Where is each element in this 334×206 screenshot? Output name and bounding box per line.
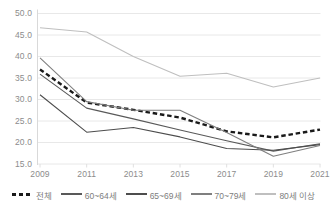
legend-item-70~79세[interactable]: 70~79세 [191,189,247,201]
legend-swatch-80세 이상 [255,190,276,199]
legend-swatch-전체 [12,190,33,199]
series-lines [40,28,320,157]
y-tick-label: 20.0 [6,137,32,147]
y-tick-label: 40.0 [6,51,32,61]
chart-legend: 전체60~64세65~69세70~79세80세 이상 [0,183,327,206]
x-tick-label: 2011 [70,169,104,179]
x-tick-label: 2021 [303,169,334,179]
y-tick-label: 30.0 [6,94,32,104]
legend-item-65~69세[interactable]: 65~69세 [126,189,182,201]
legend-label: 60~64세 [85,189,117,201]
y-tick-label: 45.0 [6,30,32,40]
legend-item-80세 이상[interactable]: 80세 이상 [255,189,315,201]
x-tick-label: 2019 [256,169,290,179]
x-tick-label: 2017 [210,169,244,179]
gridlines [38,14,321,165]
legend-item-60~64세[interactable]: 60~64세 [61,189,117,201]
legend-label: 전체 [36,189,52,201]
y-tick-label: 50.0 [6,8,32,18]
legend-swatch-60~64세 [61,190,82,199]
x-tick-label: 2009 [23,169,57,179]
y-tick-label: 15.0 [6,159,32,169]
axis-lines [38,10,321,168]
legend-label: 65~69세 [150,189,182,201]
legend-swatch-65~69세 [126,190,147,199]
x-tick-label: 2013 [116,169,150,179]
series-line-70~79세 [40,58,320,156]
legend-label: 70~79세 [215,189,247,201]
y-tick-label: 25.0 [6,116,32,126]
y-tick-label: 35.0 [6,73,32,83]
series-line-전체 [40,69,320,137]
legend-swatch-70~79세 [191,190,212,199]
series-line-65~69세 [40,95,320,150]
legend-label: 80세 이상 [279,189,315,201]
legend-item-전체[interactable]: 전체 [12,189,52,201]
x-tick-label: 2015 [163,169,197,179]
